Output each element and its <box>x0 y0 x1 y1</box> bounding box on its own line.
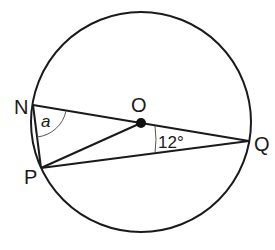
center-dot <box>136 118 146 128</box>
angle-arc-q <box>155 126 156 153</box>
label-angle-12: 12° <box>158 133 184 152</box>
label-angle-a: a <box>41 112 50 131</box>
label-n: N <box>14 96 28 118</box>
label-o: O <box>131 94 147 116</box>
geometry-diagram: N P Q O a 12° <box>0 0 275 250</box>
label-p: P <box>24 166 37 188</box>
label-q: Q <box>254 133 270 155</box>
